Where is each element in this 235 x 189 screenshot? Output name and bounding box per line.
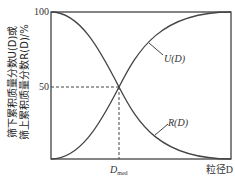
x-axis-label: 粒径D <box>206 163 233 175</box>
u-label-leader <box>149 43 163 55</box>
r-curve <box>51 12 231 159</box>
dmed-label: Dmed <box>109 164 128 176</box>
plot-frame <box>51 12 231 159</box>
y-tick-100: 100 <box>34 6 49 17</box>
u-curve <box>51 12 231 159</box>
y-axis-label-line2: 筛上累积质量分数R(D)/% <box>19 24 31 139</box>
r-curve-label: R(D) <box>167 117 189 129</box>
y-tick-50: 50 <box>39 81 49 92</box>
u-curve-label: U(D) <box>164 53 186 65</box>
y-axis-label: 筛下累积质量分数U(D)或 筛上累积质量分数R(D)/% <box>2 22 36 142</box>
r-label-leader <box>155 124 168 135</box>
y-axis-label-line1: 筛下累积质量分数U(D)或 <box>7 24 19 139</box>
